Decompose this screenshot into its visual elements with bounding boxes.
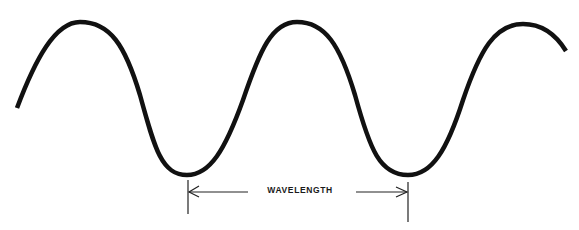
wavelength-diagram: [0, 0, 579, 230]
wavelength-label: WAVELENGTH: [250, 185, 350, 195]
sine-wave: [17, 22, 566, 175]
